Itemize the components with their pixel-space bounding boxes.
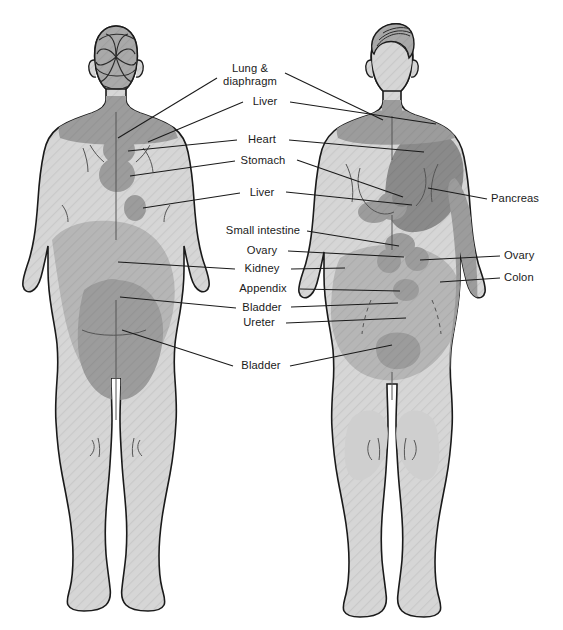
label-small-intestine: Small intestine [226,224,300,237]
zone-liver-back [124,195,146,221]
label-colon: Colon [504,271,534,284]
zone-bladder-sacral [95,279,129,311]
zone-appendix [393,279,419,301]
anterior-head [366,24,419,91]
zone-stomach-back [99,158,135,192]
label-liver-upper: Liver [253,95,278,108]
label-ureter: Ureter [243,316,275,329]
label-stomach: Stomach [241,154,286,167]
label-heart: Heart [248,133,276,146]
zone-ovary-right [377,249,401,273]
posterior-figure [23,26,210,611]
label-bladder-upper: Bladder [242,301,281,314]
leader-lung-front [285,73,383,120]
zone-ovary-left [405,247,429,271]
anterior-figure [299,24,486,617]
label-ovary-left: Ovary [247,244,277,257]
label-lung-diaphragm-line2: diaphragm [223,75,277,87]
referred-pain-diagram: Lung & diaphragm Liver Heart Stomach Liv… [0,0,563,630]
posterior-head [89,26,144,89]
label-ovary-right: Ovary [504,249,534,262]
label-pancreas: Pancreas [491,192,539,205]
label-appendix: Appendix [239,282,286,295]
label-kidney: Kidney [245,262,280,275]
label-lung-diaphragm-line1: Lung & [232,62,268,74]
zone-bladder-sacral-lower [98,308,126,344]
label-lung-diaphragm: Lung & diaphragm [223,62,277,87]
label-bladder-lower: Bladder [241,359,280,372]
label-liver-lower: Liver [250,186,275,199]
